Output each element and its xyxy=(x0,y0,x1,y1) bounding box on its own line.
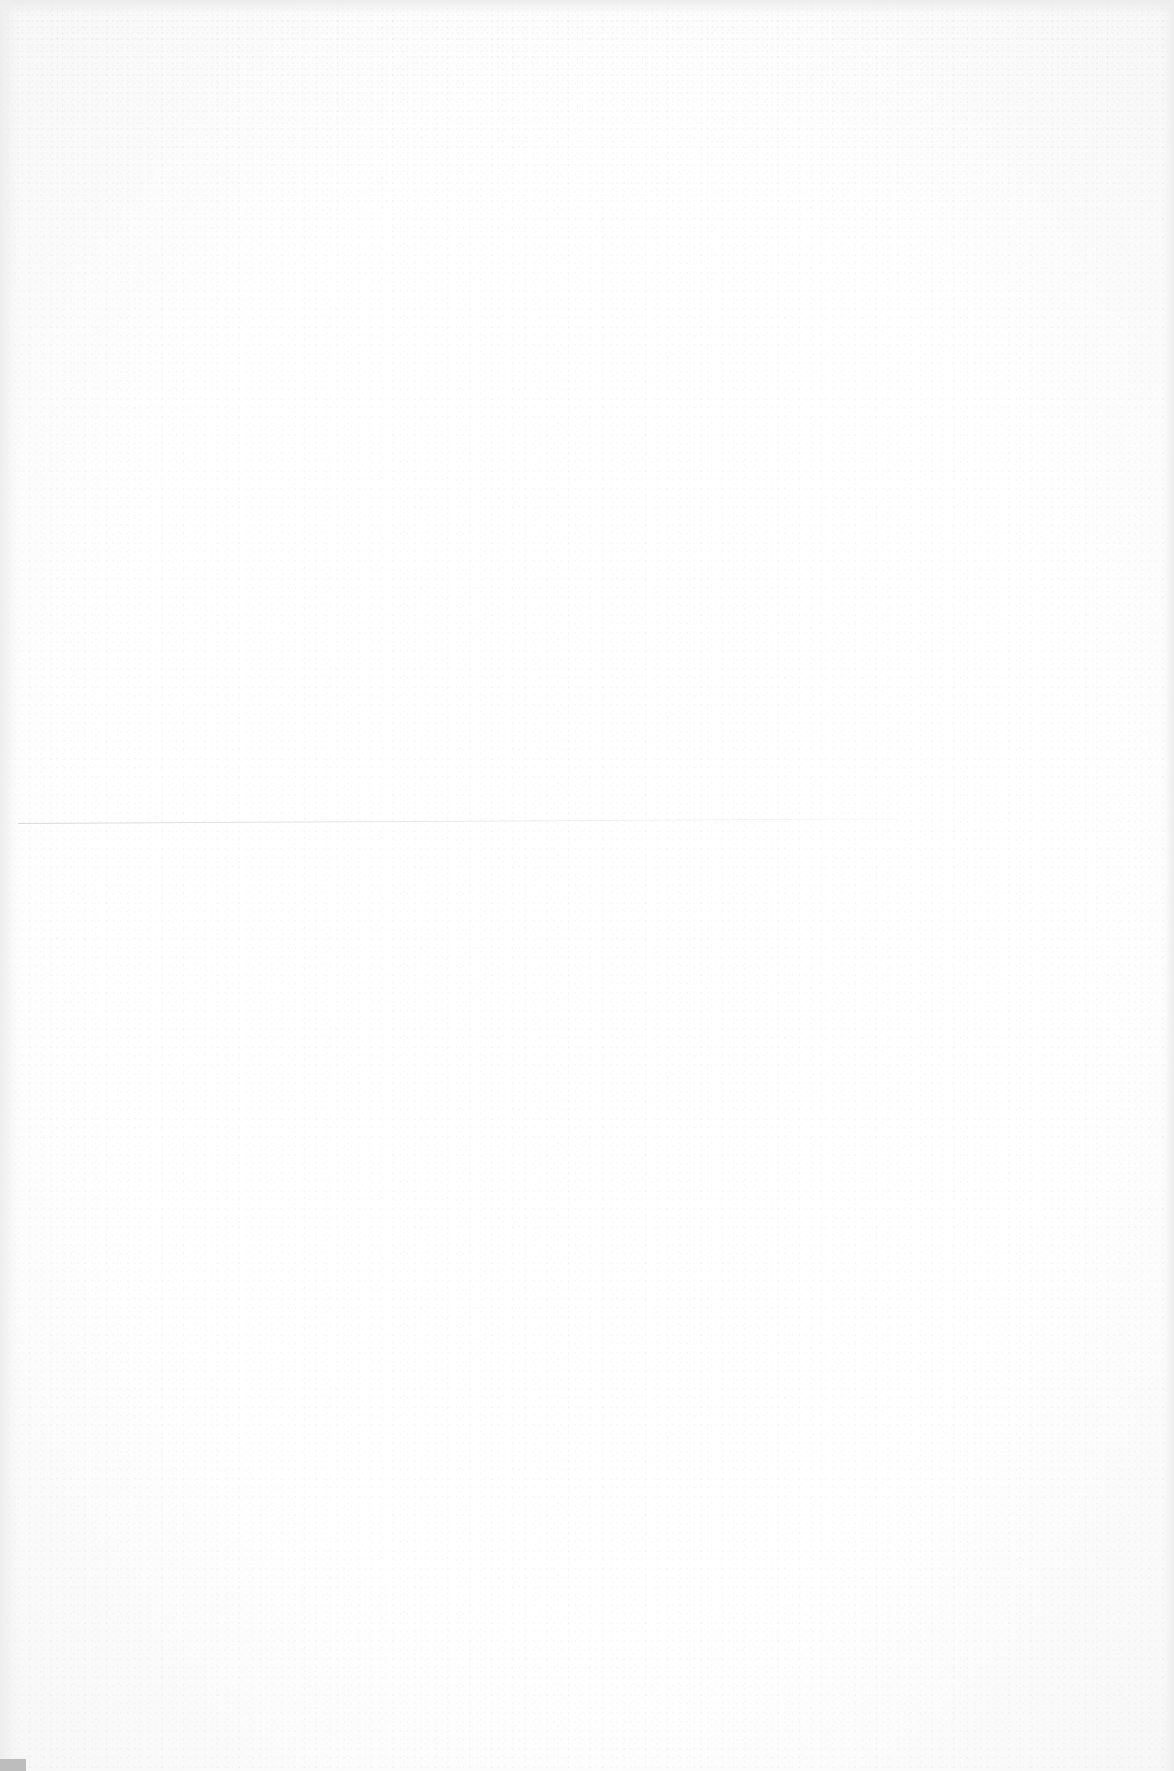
page-content xyxy=(0,0,1174,1771)
scanned-page xyxy=(0,0,1174,1771)
